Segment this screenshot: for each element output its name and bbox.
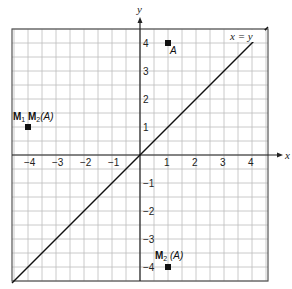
x-tick-label: −2 <box>80 157 92 168</box>
x-axis-arrow-icon <box>277 153 283 158</box>
y-tick-label: 2 <box>143 94 149 105</box>
x-tick-label: 2 <box>192 157 198 168</box>
x-tick-label: −3 <box>52 157 64 168</box>
coordinate-plane: x y −4−3−2−112344321−1−2−3−4 x = y A M1 … <box>0 0 292 289</box>
x-tick-label: 1 <box>164 157 170 168</box>
y-tick-label: 1 <box>143 122 149 133</box>
x-tick-label: 4 <box>248 157 254 168</box>
y-axis-arrow-icon <box>138 17 143 23</box>
line-label: x = y <box>229 30 253 42</box>
y-tick-label: 3 <box>143 66 149 77</box>
svg-text:M2 (A): M2 (A) <box>155 250 183 262</box>
x-tick-label: 3 <box>220 157 226 168</box>
svg-text:A: A <box>169 45 177 56</box>
svg-text:M1 M2(A): M1 M2(A) <box>13 111 54 123</box>
x-tick-label: −4 <box>24 157 36 168</box>
y-tick-label: −4 <box>143 262 155 273</box>
y-tick-label: −1 <box>143 178 155 189</box>
point-a: A <box>165 40 177 56</box>
y-tick-label: 4 <box>143 38 149 49</box>
y-axis-label: y <box>136 3 142 15</box>
x-tick-label: −1 <box>108 157 120 168</box>
y-tick-label: −3 <box>143 234 155 245</box>
x-axis-label: x <box>284 149 290 161</box>
y-tick-label: −2 <box>143 206 155 217</box>
